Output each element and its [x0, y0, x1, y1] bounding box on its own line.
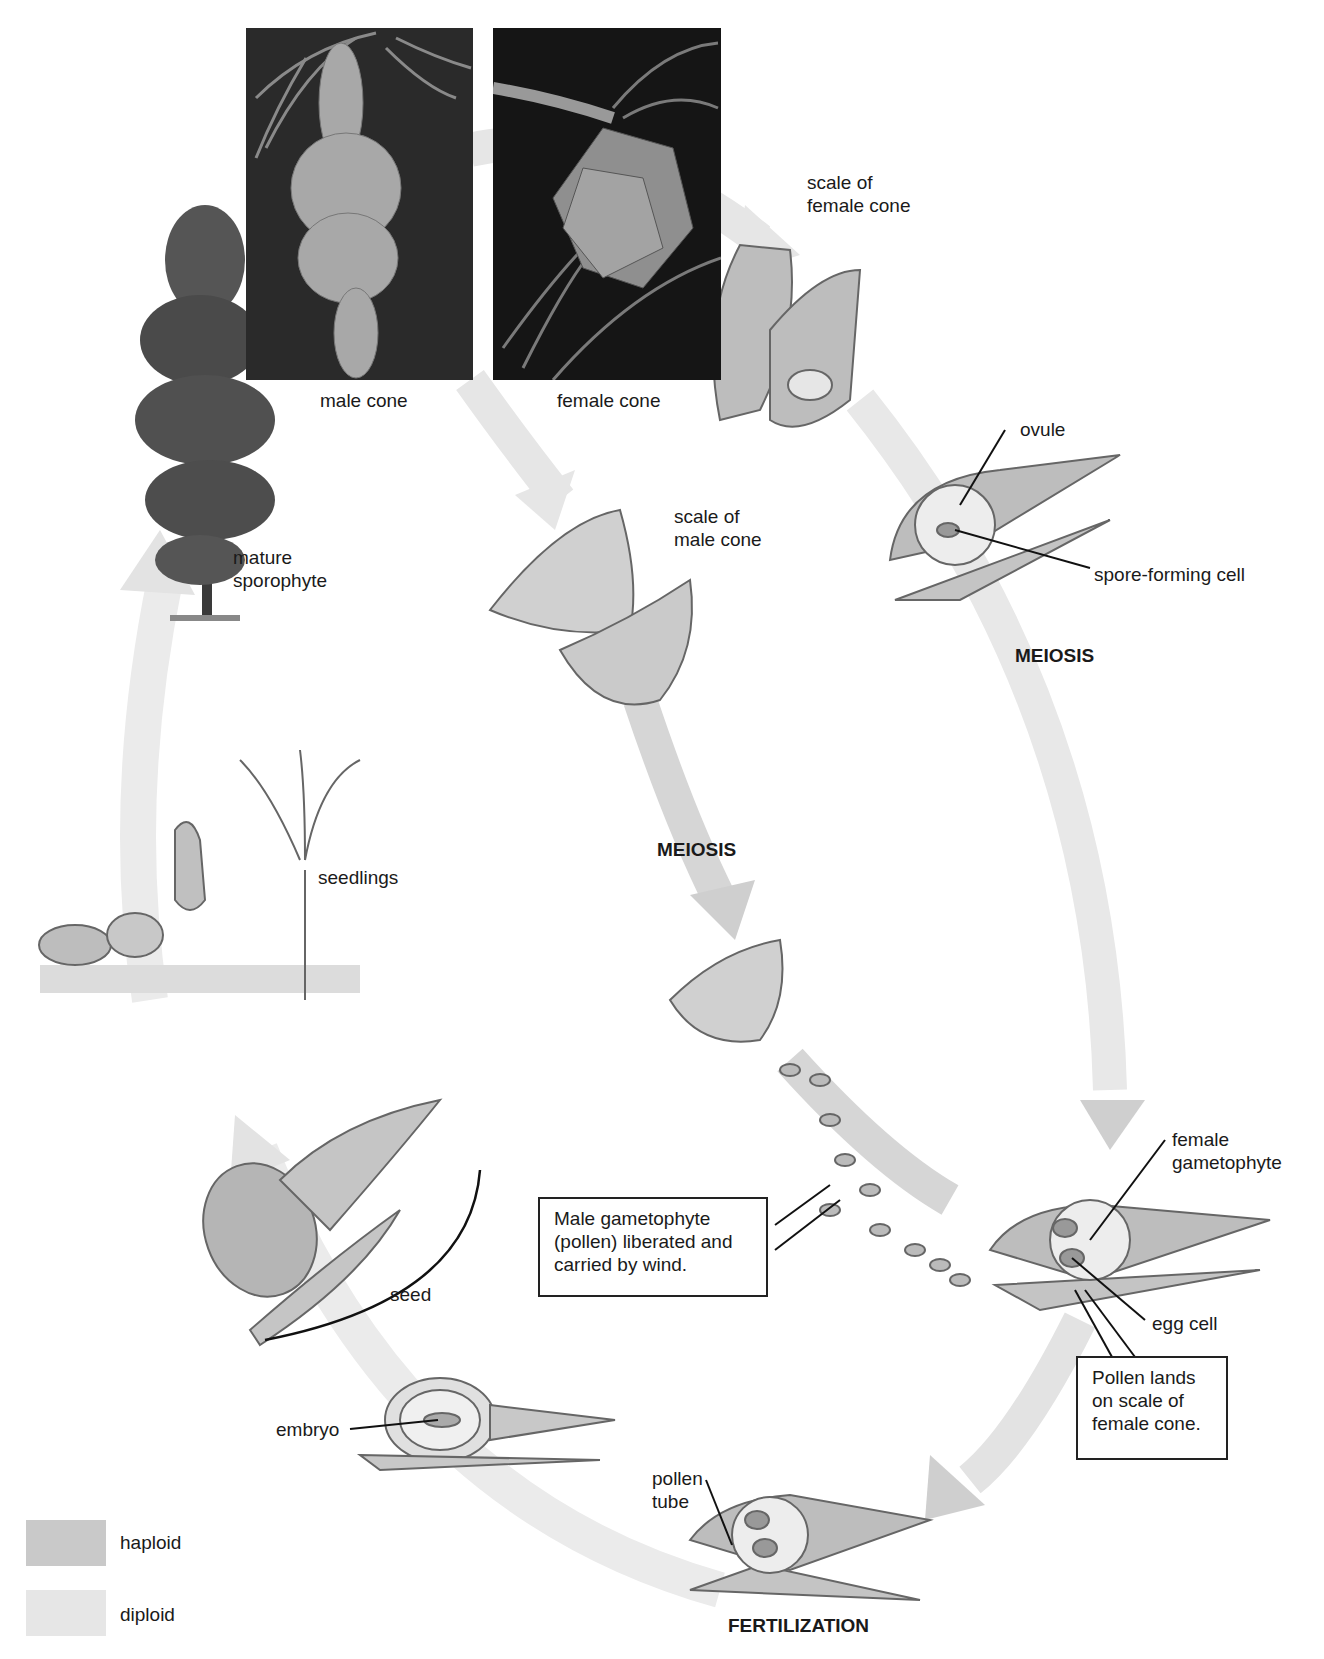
- ovule-label: ovule: [1020, 418, 1065, 441]
- legend-label-haploid: haploid: [120, 1531, 181, 1554]
- female-gametophyte-illustration: [990, 1200, 1270, 1310]
- female-cone-scale-illustration: [713, 245, 860, 427]
- pollen-liberated-callout: Male gametophyte (pollen) liberated and …: [538, 1197, 768, 1297]
- mature-sporophyte-label: mature sporophyte: [233, 546, 327, 592]
- leader-pollen-liberated-2: [775, 1200, 840, 1250]
- male-cone-label: male cone: [320, 389, 408, 412]
- fertilization-label: FERTILIZATION: [728, 1614, 869, 1637]
- embryo-label: embryo: [276, 1418, 339, 1441]
- scale-female-cone-label: scale of female cone: [807, 171, 911, 217]
- pollen-tube-label: pollen tube: [652, 1467, 703, 1513]
- meiosis-male-label: MEIOSIS: [657, 838, 736, 861]
- female-gametophyte-label: female gametophyte: [1172, 1128, 1282, 1174]
- meiosis-female-label: MEIOSIS: [1015, 644, 1094, 667]
- legend-label-diploid: diploid: [120, 1603, 175, 1626]
- seed-label: seed: [390, 1283, 431, 1306]
- pollen-lands-callout: Pollen lands on scale of female cone.: [1076, 1356, 1228, 1460]
- egg-cell-label: egg cell: [1152, 1312, 1218, 1335]
- male-cone-photo: [246, 28, 473, 380]
- leader-pollen-liberated-1: [775, 1185, 830, 1225]
- seed-illustration: [185, 1100, 440, 1345]
- female-cone-label: female cone: [557, 389, 661, 412]
- spore-forming-cell-label: spore-forming cell: [1094, 563, 1245, 586]
- seedlings-illustration: [39, 750, 360, 1000]
- scale-male-cone-label: scale of male cone: [674, 505, 762, 551]
- legend-swatch-diploid: [26, 1590, 106, 1636]
- male-cone-scale-illustration: [490, 510, 692, 704]
- female-cone-photo: [493, 28, 721, 380]
- fertilization-illustration: [690, 1495, 930, 1600]
- legend-swatch-haploid: [26, 1520, 106, 1566]
- seedlings-label: seedlings: [318, 866, 398, 889]
